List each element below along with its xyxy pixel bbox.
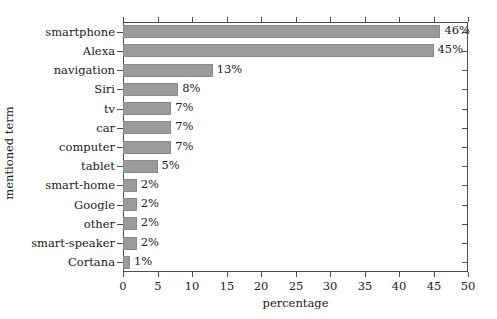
- bar: [123, 64, 213, 77]
- bar-value-label: 2%: [141, 177, 159, 192]
- y-tick-label: Google: [74, 198, 115, 212]
- x-tick-mark: [330, 272, 331, 277]
- bar-row: 1%: [123, 256, 468, 269]
- bar-value-label: 1%: [134, 254, 152, 269]
- x-tick-mark-top: [399, 17, 400, 22]
- y-tick-label: car: [96, 121, 115, 135]
- x-tick-mark-top: [192, 17, 193, 22]
- y-tick-label: smartphone: [45, 25, 115, 39]
- bar: [123, 44, 434, 57]
- bar-row: 2%: [123, 179, 468, 192]
- bar-value-label: 2%: [141, 235, 159, 250]
- bar-value-label: 5%: [162, 158, 180, 173]
- y-tick-label: Siri: [94, 82, 115, 96]
- y-tick-label: other: [84, 217, 115, 231]
- y-tick-label: tv: [104, 102, 115, 116]
- x-tick-mark-top: [123, 17, 124, 22]
- bar-row: 2%: [123, 237, 468, 250]
- bar: [123, 25, 440, 38]
- x-axis-title: percentage: [123, 296, 468, 310]
- bar: [123, 141, 171, 154]
- bar-chart-figure: mentioned term smartphoneAlexanavigation…: [0, 0, 497, 319]
- bar-value-label: 2%: [141, 215, 159, 230]
- x-tick-label: 25: [281, 279, 311, 293]
- x-tick-label: 20: [246, 279, 276, 293]
- bar-value-label: 45%: [438, 42, 464, 57]
- x-tick-mark: [123, 272, 124, 277]
- x-tick-mark: [468, 272, 469, 277]
- bar: [123, 121, 171, 134]
- bar-row: 7%: [123, 121, 468, 134]
- x-tick-label: 50: [453, 279, 483, 293]
- bar: [123, 256, 130, 269]
- x-tick-mark-top: [365, 17, 366, 22]
- bar-row: 8%: [123, 83, 468, 96]
- y-tick-label: smart-home: [45, 178, 115, 192]
- bar-value-label: 7%: [175, 119, 193, 134]
- bar-value-label: 2%: [141, 196, 159, 211]
- bar-row: 2%: [123, 217, 468, 230]
- bar: [123, 160, 158, 173]
- x-tick-mark-top: [468, 17, 469, 22]
- x-tick-label: 40: [384, 279, 414, 293]
- bar: [123, 179, 137, 192]
- x-tick-mark: [434, 272, 435, 277]
- x-tick-mark-top: [158, 17, 159, 22]
- x-tick-mark: [399, 272, 400, 277]
- bar: [123, 83, 178, 96]
- x-tick-mark-top: [434, 17, 435, 22]
- y-tick-label: navigation: [54, 63, 115, 77]
- x-tick-mark-top: [296, 17, 297, 22]
- bar-row: 7%: [123, 102, 468, 115]
- bar: [123, 102, 171, 115]
- y-tick-label: computer: [59, 140, 115, 154]
- x-tick-label: 5: [143, 279, 173, 293]
- x-tick-mark: [192, 272, 193, 277]
- x-tick-label: 0: [108, 279, 138, 293]
- x-tick-mark: [365, 272, 366, 277]
- bar-value-label: 13%: [217, 62, 243, 77]
- y-axis-title: mentioned term: [2, 98, 16, 208]
- x-tick-label: 30: [315, 279, 345, 293]
- y-tick-label: Alexa: [83, 44, 115, 58]
- x-tick-label: 45: [419, 279, 449, 293]
- bar-value-label: 46%: [444, 23, 470, 38]
- x-tick-mark-top: [330, 17, 331, 22]
- bar-row: 7%: [123, 141, 468, 154]
- y-tick-label: Cortana: [68, 255, 115, 269]
- x-tick-mark: [296, 272, 297, 277]
- bar-row: 5%: [123, 160, 468, 173]
- x-tick-mark: [227, 272, 228, 277]
- x-tick-label: 15: [212, 279, 242, 293]
- bar-row: 2%: [123, 198, 468, 211]
- x-tick-mark-top: [227, 17, 228, 22]
- bar-row: 13%: [123, 64, 468, 77]
- bar-row: 46%: [123, 25, 468, 38]
- x-tick-mark-top: [261, 17, 262, 22]
- x-tick-mark: [158, 272, 159, 277]
- y-tick-label: smart-speaker: [31, 236, 115, 250]
- bar: [123, 217, 137, 230]
- x-tick-label: 35: [350, 279, 380, 293]
- x-tick-label: 10: [177, 279, 207, 293]
- bar-value-label: 7%: [175, 139, 193, 154]
- bar: [123, 237, 137, 250]
- bar-row: 45%: [123, 44, 468, 57]
- x-tick-mark: [261, 272, 262, 277]
- bar-value-label: 8%: [182, 81, 200, 96]
- y-tick-label: tablet: [81, 159, 115, 173]
- bar: [123, 198, 137, 211]
- bar-value-label: 7%: [175, 100, 193, 115]
